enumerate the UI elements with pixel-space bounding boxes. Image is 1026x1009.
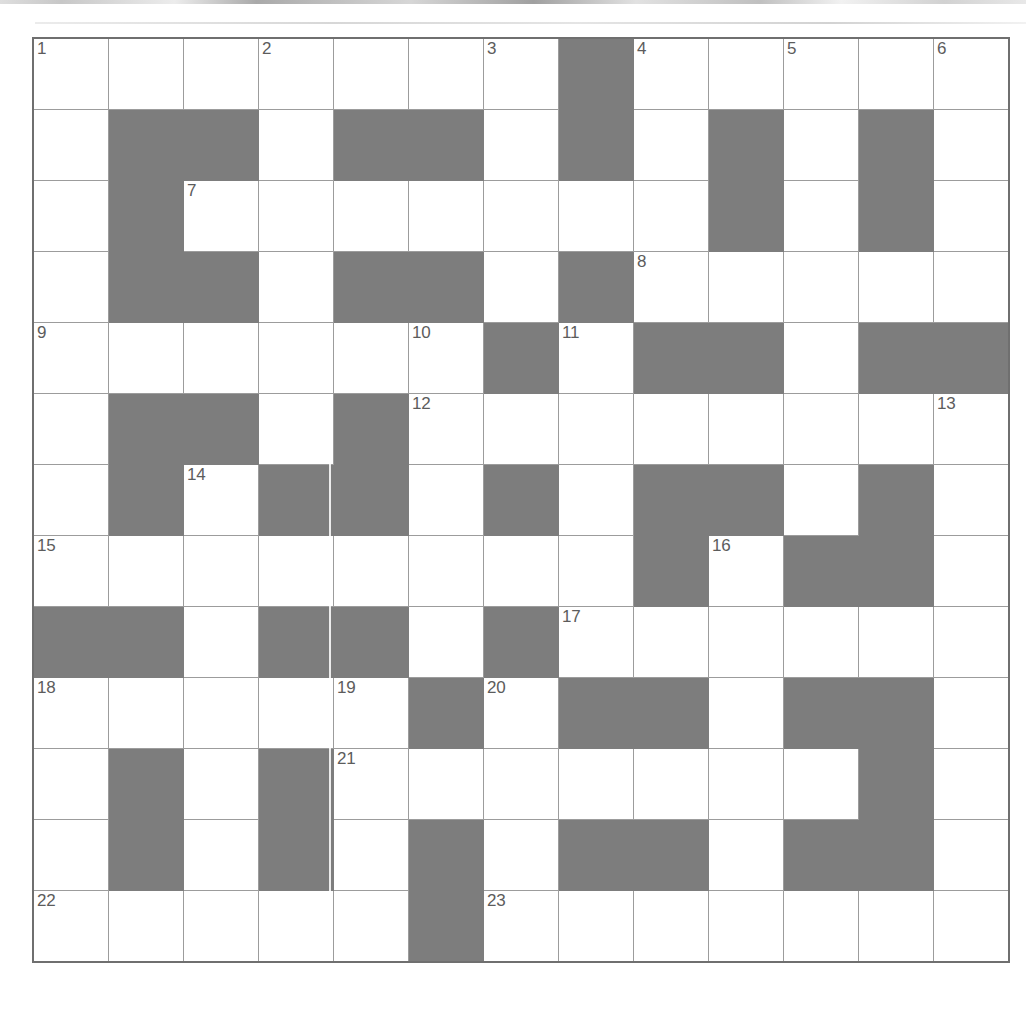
crossword-cell[interactable] <box>409 749 484 820</box>
crossword-cell[interactable]: 7 <box>184 181 259 252</box>
crossword-cell[interactable] <box>709 38 784 110</box>
crossword-cell[interactable] <box>334 181 409 252</box>
crossword-cell[interactable] <box>784 607 859 678</box>
crossword-cell[interactable] <box>184 820 259 891</box>
crossword-cell[interactable] <box>33 110 109 181</box>
crossword-cell[interactable] <box>859 38 934 110</box>
crossword-cell[interactable] <box>109 891 184 963</box>
crossword-cell[interactable] <box>484 749 559 820</box>
crossword-cell[interactable] <box>184 38 259 110</box>
crossword-cell[interactable] <box>859 607 934 678</box>
crossword-cell[interactable] <box>184 536 259 607</box>
crossword-cell[interactable]: 22 <box>33 891 109 963</box>
crossword-cell[interactable] <box>259 110 334 181</box>
crossword-cell[interactable] <box>709 749 784 820</box>
crossword-cell[interactable]: 1 <box>33 38 109 110</box>
crossword-cell[interactable] <box>409 181 484 252</box>
crossword-cell[interactable]: 18 <box>33 678 109 749</box>
crossword-cell[interactable] <box>709 252 784 323</box>
crossword-cell[interactable] <box>784 891 859 963</box>
crossword-cell[interactable] <box>109 678 184 749</box>
crossword-cell[interactable]: 23 <box>484 891 559 963</box>
crossword-cell[interactable] <box>934 465 1010 536</box>
crossword-cell[interactable] <box>409 607 484 678</box>
crossword-cell[interactable] <box>559 465 634 536</box>
crossword-cell[interactable] <box>184 607 259 678</box>
crossword-cell[interactable] <box>259 394 334 465</box>
crossword-cell[interactable] <box>934 891 1010 963</box>
crossword-cell[interactable] <box>109 536 184 607</box>
crossword-cell[interactable] <box>934 820 1010 891</box>
crossword-cell[interactable] <box>109 323 184 394</box>
crossword-cell[interactable] <box>784 465 859 536</box>
crossword-cell[interactable] <box>559 394 634 465</box>
crossword-cell[interactable]: 3 <box>484 38 559 110</box>
crossword-cell[interactable] <box>484 820 559 891</box>
crossword-cell[interactable] <box>784 181 859 252</box>
crossword-cell[interactable] <box>934 110 1010 181</box>
crossword-cell[interactable] <box>33 394 109 465</box>
crossword-cell[interactable] <box>709 607 784 678</box>
crossword-cell[interactable]: 20 <box>484 678 559 749</box>
crossword-cell[interactable] <box>33 252 109 323</box>
crossword-cell[interactable] <box>409 465 484 536</box>
crossword-cell[interactable] <box>559 891 634 963</box>
crossword-grid[interactable]: 1234567891011121314151617181920212223 <box>32 37 1010 963</box>
crossword-cell[interactable] <box>859 394 934 465</box>
crossword-cell[interactable] <box>634 394 709 465</box>
crossword-cell[interactable] <box>784 110 859 181</box>
crossword-cell[interactable] <box>934 749 1010 820</box>
crossword-cell[interactable] <box>184 891 259 963</box>
crossword-cell[interactable]: 8 <box>634 252 709 323</box>
crossword-cell[interactable] <box>634 110 709 181</box>
crossword-cell[interactable] <box>484 252 559 323</box>
crossword-cell[interactable] <box>934 252 1010 323</box>
crossword-cell[interactable] <box>334 38 409 110</box>
crossword-cell[interactable] <box>409 536 484 607</box>
crossword-cell[interactable] <box>859 252 934 323</box>
crossword-cell[interactable] <box>784 252 859 323</box>
crossword-cell[interactable] <box>259 252 334 323</box>
crossword-cell[interactable] <box>559 536 634 607</box>
crossword-cell[interactable] <box>33 465 109 536</box>
crossword-cell[interactable] <box>259 891 334 963</box>
crossword-cell[interactable] <box>634 891 709 963</box>
crossword-cell[interactable] <box>859 891 934 963</box>
crossword-cell[interactable]: 15 <box>33 536 109 607</box>
crossword-cell[interactable] <box>784 394 859 465</box>
crossword-cell[interactable]: 9 <box>33 323 109 394</box>
crossword-cell[interactable] <box>934 607 1010 678</box>
crossword-cell[interactable]: 11 <box>559 323 634 394</box>
crossword-cell[interactable] <box>709 394 784 465</box>
crossword-cell[interactable]: 14 <box>184 465 259 536</box>
crossword-cell[interactable] <box>259 678 334 749</box>
crossword-cell[interactable] <box>33 181 109 252</box>
crossword-cell[interactable] <box>334 820 409 891</box>
crossword-cell[interactable] <box>784 323 859 394</box>
crossword-cell[interactable] <box>709 678 784 749</box>
crossword-cell[interactable] <box>934 678 1010 749</box>
crossword-cell[interactable] <box>334 891 409 963</box>
crossword-cell[interactable]: 5 <box>784 38 859 110</box>
crossword-cell[interactable] <box>334 323 409 394</box>
crossword-cell[interactable] <box>33 749 109 820</box>
crossword-cell[interactable] <box>409 38 484 110</box>
crossword-cell[interactable]: 19 <box>334 678 409 749</box>
crossword-cell[interactable]: 21 <box>334 749 409 820</box>
crossword-cell[interactable] <box>259 323 334 394</box>
crossword-cell[interactable]: 2 <box>259 38 334 110</box>
crossword-cell[interactable] <box>484 110 559 181</box>
crossword-cell[interactable] <box>484 181 559 252</box>
crossword-cell[interactable] <box>634 181 709 252</box>
crossword-cell[interactable]: 10 <box>409 323 484 394</box>
crossword-cell[interactable]: 4 <box>634 38 709 110</box>
crossword-cell[interactable] <box>709 820 784 891</box>
crossword-cell[interactable] <box>259 536 334 607</box>
crossword-cell[interactable] <box>484 394 559 465</box>
crossword-cell[interactable]: 17 <box>559 607 634 678</box>
crossword-cell[interactable] <box>334 536 409 607</box>
crossword-cell[interactable] <box>634 749 709 820</box>
crossword-cell[interactable]: 16 <box>709 536 784 607</box>
crossword-cell[interactable] <box>559 749 634 820</box>
crossword-cell[interactable] <box>184 678 259 749</box>
